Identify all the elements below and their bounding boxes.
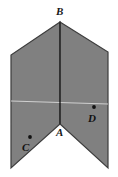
figure-canvas [0,0,118,177]
point-marker-d [92,105,96,109]
geometry-figure: B A C D [0,0,118,177]
right-wing-face [60,22,108,168]
point-label-c: C [22,142,29,153]
vertex-label-b: B [56,6,63,17]
point-marker-c [28,135,32,139]
vertex-label-a: A [56,127,63,138]
left-wing-face [11,22,60,168]
point-label-d: D [88,113,96,124]
